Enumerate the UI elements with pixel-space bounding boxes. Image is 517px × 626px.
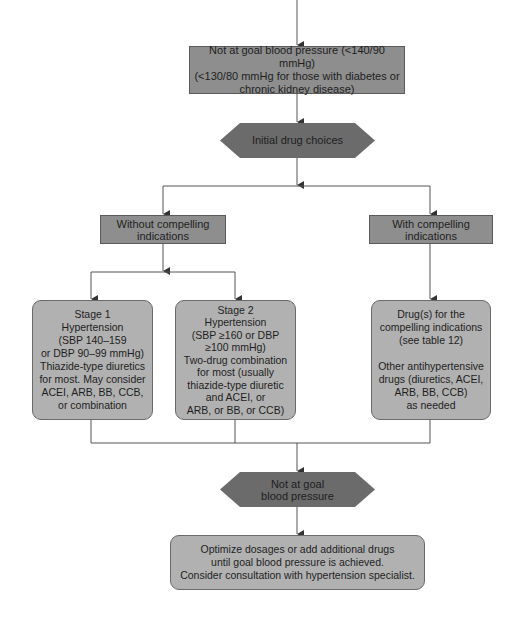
initial-drug-choices-decision: Initial drug choices (220, 123, 375, 158)
optimize-dosages-box: Optimize dosages or add additional drugs… (170, 535, 425, 590)
stage1-line-7: ACEI, ARB, BB, CCB, (39, 386, 145, 399)
stage2-line-3: (SBP ≥160 or DBP (184, 329, 287, 342)
with-line-1: With compelling (392, 218, 470, 230)
compelling-line-5: Other antihypertensive (378, 360, 484, 373)
compelling-line-7: ARB, BB, CCB) (378, 386, 484, 399)
stage2-line-7: thiazide-type diuretic (184, 379, 287, 392)
not-at-goal-bp-box: Not at goal blood pressure (<140/90 mmHg… (189, 46, 405, 94)
with-compelling-indications-box: With compelling indications (369, 215, 493, 244)
compelling-line-1: Drug(s) for the (378, 308, 484, 321)
stage2-line-9: ARB, or BB, or CCB) (184, 404, 287, 417)
without-line-1: Without compelling (117, 218, 210, 230)
compelling-indications-drugs-box: Drug(s) for the compelling indications (… (371, 300, 491, 420)
compelling-line-8: as needed (378, 399, 484, 412)
with-line-2: indications (392, 230, 470, 242)
top-box-line-1: Not at goal blood pressure (<140/90 mmHg… (190, 44, 404, 70)
stage2-line-2: Hypertension (184, 316, 287, 329)
not-at-goal-decision: Not at goal blood pressure (220, 472, 375, 507)
without-line-2: indications (117, 230, 210, 242)
without-compelling-indications-box: Without compelling indications (100, 215, 226, 244)
stage1-line-4: or DBP 90–99 mmHg) (39, 347, 145, 360)
stage2-line-1: Stage 2 (184, 304, 287, 317)
stage1-line-5: Thiazide-type diuretics (39, 360, 145, 373)
compelling-spacer (378, 347, 484, 360)
stage2-line-4: ≥100 mmHg) (184, 341, 287, 354)
optimize-line-1: Optimize dosages or add additional drugs (180, 543, 415, 556)
top-box-line-2: (<130/80 mmHg for those with diabetes or (190, 70, 404, 83)
optimize-line-3: Consider consultation with hypertension … (180, 569, 415, 582)
stage2-hypertension-box: Stage 2 Hypertension (SBP ≥160 or DBP ≥1… (175, 300, 296, 420)
top-box-line-3: chronic kidney disease) (190, 83, 404, 96)
not-at-goal-line-2: blood pressure (261, 490, 334, 502)
optimize-line-2: until goal blood pressure is achieved. (180, 556, 415, 569)
stage1-line-2: Hypertension (39, 321, 145, 334)
stage1-line-8: or combination (39, 399, 145, 412)
stage1-line-6: for most. May consider (39, 373, 145, 386)
stage1-line-1: Stage 1 (39, 308, 145, 321)
stage2-line-8: and ACEI, or (184, 391, 287, 404)
not-at-goal-line-1: Not at goal (261, 478, 334, 490)
stage1-hypertension-box: Stage 1 Hypertension (SBP 140–159 or DBP… (32, 300, 153, 420)
compelling-line-6: drugs (diuretics, ACEI, (378, 373, 484, 386)
compelling-line-3: (see table 12) (378, 334, 484, 347)
hypertension-treatment-flowchart: Not at goal blood pressure (<140/90 mmHg… (0, 0, 517, 626)
stage2-line-6: for most (usually (184, 366, 287, 379)
compelling-line-2: compelling indications (378, 321, 484, 334)
stage2-line-5: Two-drug combination (184, 354, 287, 367)
initial-drug-choices-label: Initial drug choices (252, 134, 343, 147)
stage1-line-3: (SBP 140–159 (39, 334, 145, 347)
